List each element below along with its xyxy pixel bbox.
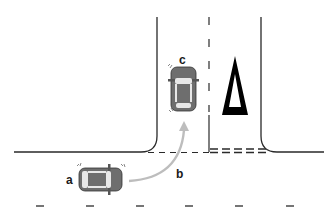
vehicle-c	[168, 64, 199, 112]
label-a: a	[66, 174, 73, 186]
vehicle-a	[77, 163, 125, 195]
road-layout	[0, 0, 335, 215]
intersection-diagram: a b c	[0, 0, 335, 215]
right-curb	[261, 17, 324, 152]
yield-triangle-icon	[222, 56, 248, 115]
label-b: b	[176, 168, 183, 180]
left-curb	[14, 17, 157, 152]
label-c: c	[179, 54, 186, 66]
